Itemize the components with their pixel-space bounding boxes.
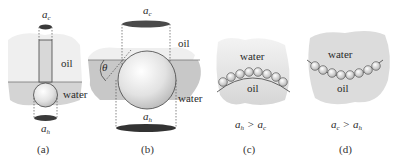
capillary-tube [39,40,52,82]
ah-ellipse [116,124,176,132]
oil-label: oil [178,37,190,49]
panel-c: water oil ah>ac (c) [216,38,290,156]
ah-ellipse [34,115,57,121]
panel-d: water oil ac>ah (d) [307,31,390,156]
water-label: water [240,50,265,62]
oil-label: oil [61,57,73,69]
caption-d: (d) [339,143,352,156]
particle-sphere [34,83,58,107]
relation-label: ah>ac [235,118,267,132]
relation-label: ac>ah [331,118,363,132]
caption-b: (b) [141,143,154,156]
caption-c: (c) [243,143,256,156]
ac-ellipse [122,21,170,28]
ac-label: ac [42,8,52,22]
ac-label: ac [143,4,153,18]
panel-a: ac ah oil water (a) [8,8,88,156]
diagram-canvas: ac ah oil water (a) θ ac ah oil water (b… [0,0,400,165]
water-label: water [63,88,88,100]
ac-ellipse [39,25,52,30]
water-label: water [328,48,353,60]
oil-label: oil [247,82,259,94]
theta-label: θ [102,61,108,73]
oil-label: oil [337,82,349,94]
ah-label: ah [143,110,153,124]
particle-sphere [118,51,176,109]
panel-b: θ ac ah oil water (b) [88,4,203,156]
water-label: water [178,92,203,104]
caption-a: (a) [37,143,50,156]
ah-label: ah [41,122,51,136]
